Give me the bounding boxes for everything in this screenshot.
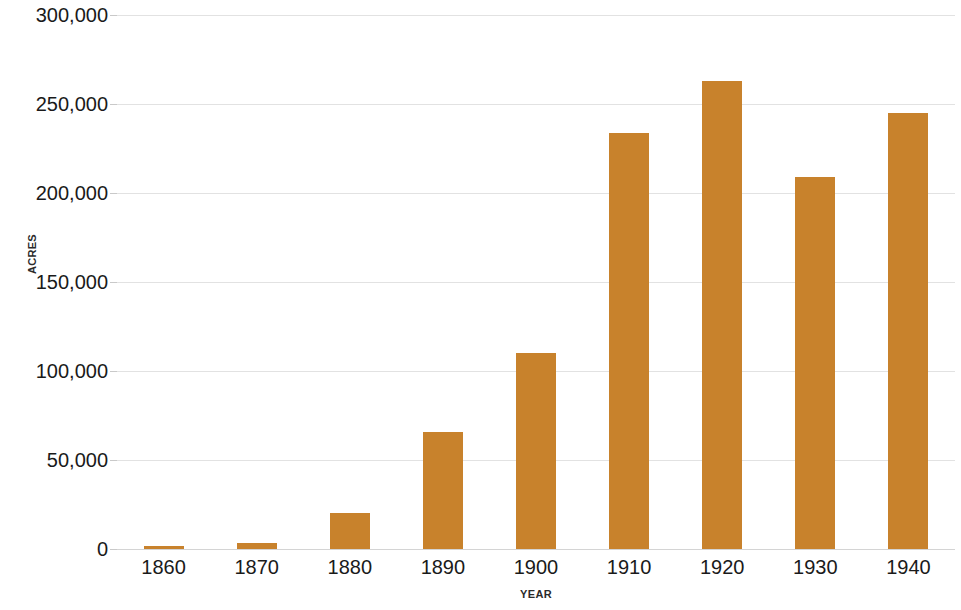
y-axis-tick-label: 300,000 <box>8 5 108 25</box>
x-axis-tick-label: 1930 <box>793 556 838 579</box>
y-axis-tick-labels: 050,000100,000150,000200,000250,000300,0… <box>0 0 108 610</box>
bar <box>423 432 463 549</box>
x-axis-tick-label: 1860 <box>141 556 186 579</box>
bar <box>144 546 184 549</box>
y-axis-tick-mark <box>110 282 117 283</box>
bar <box>888 113 928 549</box>
y-axis-tick-label: 0 <box>8 539 108 559</box>
y-axis-tick-label: 50,000 <box>8 450 108 470</box>
y-axis-tick-mark <box>110 460 117 461</box>
x-axis-tick-labels: 186018701880189019001910192019301940 <box>117 556 955 584</box>
bar <box>795 177 835 549</box>
x-axis-tick-label: 1920 <box>700 556 745 579</box>
bar <box>516 353 556 549</box>
bar-chart: ACRES 050,000100,000150,000200,000250,00… <box>0 0 961 610</box>
plot-area <box>117 15 955 549</box>
x-axis-tick-label: 1880 <box>328 556 373 579</box>
x-axis-tick-label: 1870 <box>234 556 279 579</box>
bar <box>237 543 277 549</box>
y-axis-tick-mark <box>110 193 117 194</box>
y-axis-tick-label: 200,000 <box>8 183 108 203</box>
x-axis-tick-label: 1890 <box>421 556 466 579</box>
y-axis-tick-label: 100,000 <box>8 361 108 381</box>
y-axis-tick-mark <box>110 15 117 16</box>
bar <box>702 81 742 549</box>
y-axis-tick-mark <box>110 371 117 372</box>
x-axis-title: YEAR <box>117 588 955 600</box>
y-axis-tick-label: 150,000 <box>8 272 108 292</box>
bars <box>117 15 955 549</box>
y-axis-tick-label: 250,000 <box>8 94 108 114</box>
y-axis-tick-mark <box>110 104 117 105</box>
x-axis-tick-label: 1900 <box>514 556 559 579</box>
x-axis-tick-label: 1940 <box>886 556 931 579</box>
x-axis-tick-label: 1910 <box>607 556 652 579</box>
gridline <box>117 549 955 550</box>
y-axis-tick-mark <box>110 549 117 550</box>
bar <box>330 513 370 549</box>
bar <box>609 133 649 549</box>
